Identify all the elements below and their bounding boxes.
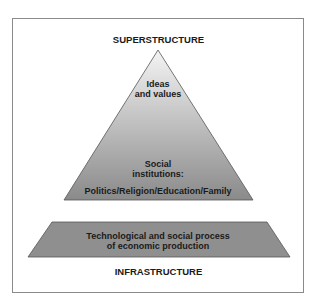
economic-production-label: Technological and social process of econ… bbox=[58, 231, 258, 251]
diagram-shapes bbox=[0, 0, 317, 305]
superstructure-label: SUPERSTRUCTURE bbox=[0, 35, 317, 45]
ideas-line-1: Ideas bbox=[108, 79, 208, 89]
social-line-1: Social bbox=[108, 159, 208, 169]
infrastructure-label: INFRASTRUCTURE bbox=[0, 267, 317, 277]
base-line-1: Technological and social process bbox=[58, 231, 258, 241]
ideas-values-label: Ideas and values bbox=[108, 79, 208, 99]
social-institutions-label: Social institutions: bbox=[108, 159, 208, 179]
ideas-line-2: and values bbox=[108, 89, 208, 99]
base-line-2: of economic production bbox=[58, 241, 258, 251]
institutions-list-label: Politics/Religion/Education/Family bbox=[58, 186, 258, 196]
social-line-2: institutions: bbox=[108, 169, 208, 179]
